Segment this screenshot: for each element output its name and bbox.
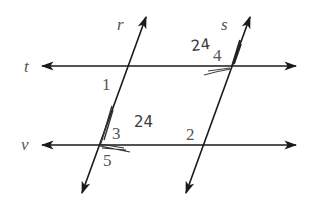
line-r	[82, 17, 146, 193]
label-line-t: t	[24, 58, 29, 75]
angle-label-1: 1	[102, 76, 111, 93]
handwritten-24-middle: 24	[134, 115, 153, 130]
angle-mark-4	[232, 40, 241, 66]
label-line-s: s	[221, 16, 228, 33]
angle-label-3: 3	[112, 125, 121, 142]
angle-label-5: 5	[103, 152, 112, 169]
label-line-r: r	[117, 16, 124, 33]
angle-mark-4-arc	[204, 68, 231, 75]
angle-label-2: 2	[186, 126, 195, 143]
handwritten-24-top: 24	[190, 37, 211, 55]
diagram-canvas	[0, 0, 331, 206]
angle-label-4: 4	[213, 47, 222, 64]
label-line-v: v	[21, 136, 29, 153]
